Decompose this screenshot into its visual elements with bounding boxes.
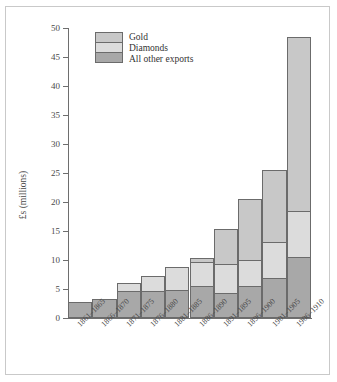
bar-stack <box>117 28 141 318</box>
bar-stack <box>214 28 238 318</box>
bar-segment-gold <box>238 199 262 261</box>
plot-area <box>68 28 311 318</box>
bar-stack <box>238 28 262 318</box>
bar-stack <box>68 28 92 318</box>
bar-segment-gold <box>262 170 286 243</box>
legend-labels: GoldDiamondsAll other exports <box>129 32 193 65</box>
bar-segment-diamonds <box>117 283 141 293</box>
bar-stack <box>165 28 189 318</box>
y-axis-tick-label: 15 <box>51 227 60 236</box>
bar-segment-gold <box>190 258 214 263</box>
y-axis-tick-label: 30 <box>51 140 60 149</box>
bar-segment-diamonds <box>214 264 238 294</box>
y-axis-tick-label: 0 <box>56 314 61 323</box>
y-axis-tick-label: 45 <box>51 53 60 62</box>
bar-segment-diamonds <box>238 260 262 287</box>
legend-label-other: All other exports <box>129 54 193 65</box>
legend-swatch-other <box>95 52 123 63</box>
y-axis-tick-label: 50 <box>51 24 60 33</box>
y-axis-tick-label: 5 <box>56 285 61 294</box>
legend-label-gold: Gold <box>129 32 193 43</box>
y-axis-tick-label: 25 <box>51 169 60 178</box>
bar-segment-gold <box>287 37 311 212</box>
y-axis-tick-label: 35 <box>51 111 60 120</box>
y-axis-tick-label: 10 <box>51 256 60 265</box>
y-axis-ticks: 05101520253035404550 <box>6 7 68 347</box>
y-axis-tick-label: 40 <box>51 82 60 91</box>
chart-legend: GoldDiamondsAll other exports <box>95 32 193 65</box>
bar-stack <box>262 28 286 318</box>
bar-stack <box>190 28 214 318</box>
bar-segment-gold <box>214 229 238 265</box>
bar-segment-diamonds <box>262 242 286 280</box>
bar-stack <box>287 28 311 318</box>
legend-label-diamonds: Diamonds <box>129 43 193 54</box>
bar-stack <box>141 28 165 318</box>
bar-segment-diamonds <box>287 211 311 258</box>
legend-swatches <box>95 32 123 65</box>
bar-segment-diamonds <box>190 262 214 287</box>
y-axis-tick-label: 20 <box>51 198 60 207</box>
bar-segment-diamonds <box>165 267 189 291</box>
bar-segment-diamonds <box>141 276 165 292</box>
chart-frame: £s (millions) 05101520253035404550 1861–… <box>5 6 330 375</box>
bar-stack <box>92 28 116 318</box>
